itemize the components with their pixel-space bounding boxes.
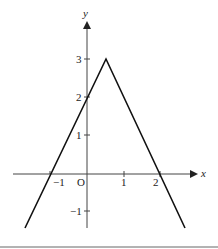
x-tick-label-m1: −1: [53, 176, 65, 188]
x-tick-label-2: 2: [153, 176, 159, 188]
origin-label: O: [77, 176, 85, 188]
function-graph: x y −1 O 1 2 3 2 1 −1: [0, 0, 218, 249]
y-axis-arrow-icon: [83, 21, 91, 29]
x-axis-label: x: [200, 167, 206, 179]
y-tick-label-2: 2: [76, 91, 82, 103]
y-axis-label: y: [82, 7, 88, 19]
y-tick-label-m1: −1: [70, 205, 82, 217]
x-tick-label-1: 1: [121, 176, 127, 188]
function-curve: [25, 59, 185, 228]
y-tick-label-3: 3: [76, 53, 82, 65]
x-axis-arrow-icon: [190, 170, 198, 178]
y-tick-label-1: 1: [76, 129, 82, 141]
